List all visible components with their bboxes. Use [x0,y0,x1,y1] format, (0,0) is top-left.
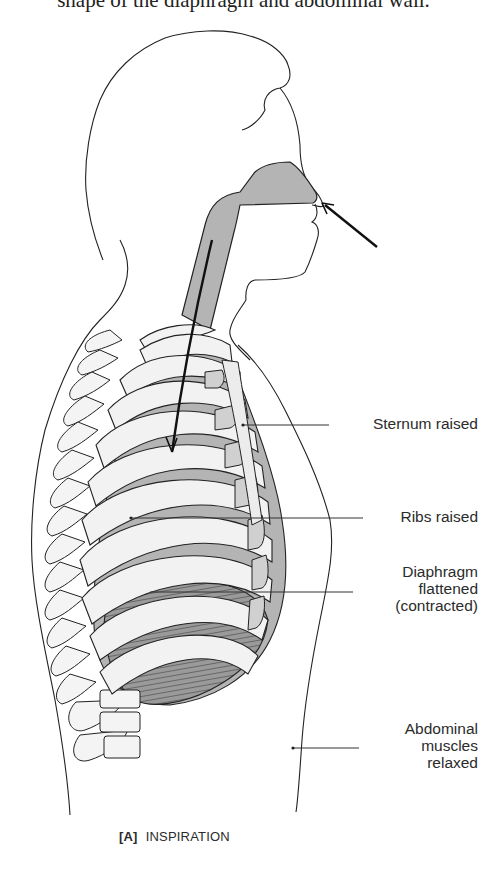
label-line: Diaphragm [356,563,478,580]
label-sternum-raised: Sternum raised [332,415,478,432]
label-ribs-raised: Ribs raised [366,508,478,525]
label-line: Ribs raised [366,508,478,525]
label-abdominal-muscles-relaxed: Abdominal muscles relaxed [362,720,478,771]
panel-letter: [A] [119,829,138,844]
label-diaphragm-flattened: Diaphragm flattened (contracted) [356,563,478,614]
label-line: muscles [362,737,478,754]
airway [182,162,317,330]
label-line: Abdominal [362,720,478,737]
caption-text: INSPIRATION [146,829,230,844]
label-line: Sternum raised [332,415,478,432]
label-line: flattened [356,580,478,597]
figure-caption: [A]INSPIRATION [119,829,230,844]
label-line: relaxed [362,754,478,771]
air-in-nose-arrow [322,203,377,247]
label-line: (contracted) [356,597,478,614]
